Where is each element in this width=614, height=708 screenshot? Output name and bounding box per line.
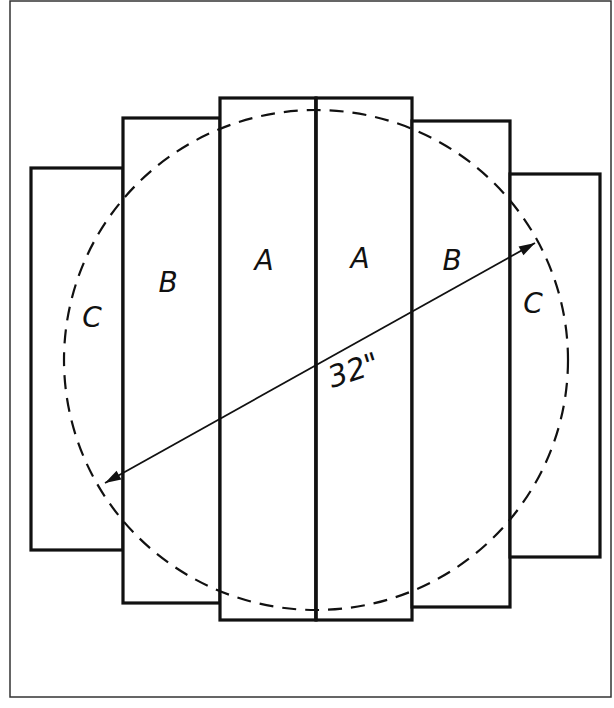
- panel-label-a-left: A: [252, 244, 273, 277]
- table-top-diagram: 32" CBAABC: [0, 0, 614, 708]
- panel-c-left: [31, 168, 123, 550]
- panel-label-c-right: C: [523, 287, 543, 320]
- board-panels: [31, 98, 600, 620]
- panel-c-right: [510, 174, 600, 557]
- panel-b-left: [123, 118, 220, 603]
- panel-label-c-left: C: [82, 301, 102, 334]
- panel-a-left: [220, 98, 316, 620]
- panel-b-right: [412, 121, 510, 607]
- panel-label-b-right: B: [442, 244, 461, 277]
- panel-label-a-right: A: [348, 242, 369, 275]
- panel-label-b-left: B: [158, 266, 177, 299]
